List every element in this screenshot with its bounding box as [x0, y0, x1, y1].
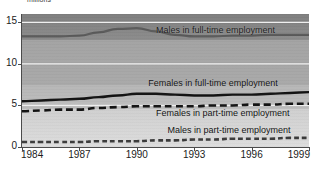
series-label-3: Females in part-time employment: [156, 108, 290, 118]
y-tick-mark: [18, 64, 22, 65]
y-axis-unit-label: millions: [27, 0, 51, 3]
x-tick-mark: [309, 147, 310, 151]
series-label-4: Males in part-time employment: [167, 125, 290, 135]
employment-line-chart: millions 051015 198419871990199319961999…: [0, 0, 331, 174]
series-label-2: Females in full-time employment: [148, 78, 278, 88]
series-line-4: [22, 138, 309, 142]
y-tick-label: 15: [0, 15, 17, 26]
x-tick-label: 1984: [21, 149, 43, 160]
x-axis-line: [21, 147, 309, 148]
y-tick-mark: [18, 105, 22, 106]
y-axis-tick-labels: 051015: [0, 0, 18, 174]
x-tick-mark: [252, 147, 253, 151]
y-tick-mark: [18, 22, 22, 23]
x-tick-mark: [137, 147, 138, 151]
series-label-1: Males in full-time employment: [156, 25, 275, 35]
y-axis-line: [21, 14, 22, 148]
x-axis-tick-labels: 198419871990199319961999: [0, 149, 331, 169]
x-tick-mark: [79, 147, 80, 151]
y-tick-label: 10: [0, 57, 17, 68]
y-tick-label: 5: [0, 98, 17, 109]
x-tick-label: 1999: [288, 149, 310, 160]
x-tick-mark: [22, 147, 23, 151]
x-tick-mark: [194, 147, 195, 151]
series-line-2: [22, 92, 309, 101]
